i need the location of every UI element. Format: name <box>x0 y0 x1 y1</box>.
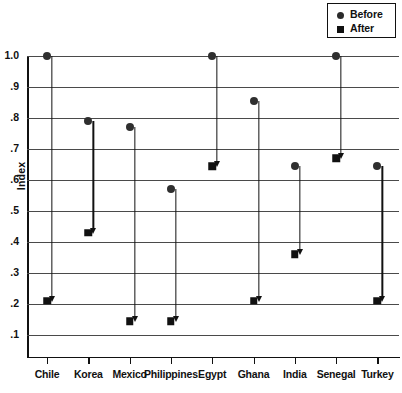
x-tick-label-philippines: Philippines <box>144 368 198 380</box>
after-data-point <box>291 251 299 259</box>
legend-item-before: Before <box>335 7 395 21</box>
change-arrow-shaft <box>299 166 300 249</box>
x-tick <box>295 357 296 364</box>
gridline <box>27 149 399 150</box>
y-tick-label: .6 <box>0 173 19 185</box>
before-data-point <box>250 97 258 105</box>
after-data-point <box>167 317 175 325</box>
after-data-point <box>43 297 51 305</box>
after-square-icon <box>335 21 346 35</box>
before-data-point <box>167 185 175 193</box>
gridline <box>27 242 399 243</box>
x-tick <box>254 357 255 364</box>
after-data-point <box>332 155 340 163</box>
x-tick <box>336 357 337 364</box>
x-axis-line <box>27 357 400 358</box>
y-tick-label: .2 <box>0 297 19 309</box>
legend-label-after: After <box>350 21 374 35</box>
x-tick-label-turkey: Turkey <box>361 368 393 380</box>
after-data-point <box>374 297 382 305</box>
after-data-point <box>126 317 134 325</box>
change-arrow-shaft <box>217 56 218 161</box>
plot-area: 1.0.9.8.7.6.5.4.3.2.1 <box>27 56 399 335</box>
gridline <box>27 180 399 181</box>
gridline <box>27 273 399 274</box>
x-tick <box>377 357 378 364</box>
before-data-point <box>373 162 381 170</box>
y-tick-label: .1 <box>0 328 19 340</box>
y-tick-label: .3 <box>0 266 19 278</box>
y-tick-label: .9 <box>0 80 19 92</box>
change-arrow-shaft <box>175 189 176 316</box>
x-tick <box>88 357 89 364</box>
x-tick-label-mexico: Mexico <box>112 368 146 380</box>
x-tick-label-ghana: Ghana <box>238 368 270 380</box>
chart-legend: Before After <box>327 3 396 38</box>
y-tick-label: .8 <box>0 111 19 123</box>
index-change-scatter-chart: Before After Index 1.0.9.8.7.6.5.4.3.2.1… <box>0 0 402 393</box>
y-tick-label: 1.0 <box>0 49 19 61</box>
change-arrow-shaft <box>382 166 383 296</box>
gridline <box>27 211 399 212</box>
x-tick-label-egypt: Egypt <box>198 368 226 380</box>
x-tick <box>212 357 213 364</box>
gridline <box>27 118 399 119</box>
gridline <box>27 304 399 305</box>
change-arrow-shaft <box>134 127 135 316</box>
after-data-point <box>85 229 93 237</box>
change-arrow-shaft <box>258 101 259 296</box>
before-data-point <box>208 52 216 60</box>
before-data-point <box>126 123 134 131</box>
x-tick-label-senegal: Senegal <box>317 368 356 380</box>
x-tick-label-korea: Korea <box>74 368 103 380</box>
y-tick-label: .4 <box>0 235 19 247</box>
gridline <box>27 87 399 88</box>
before-data-point <box>332 52 340 60</box>
before-data-point <box>43 52 51 60</box>
x-tick-label-india: India <box>283 368 307 380</box>
change-arrow-shaft <box>51 56 52 296</box>
before-data-point <box>84 117 92 125</box>
x-tick-label-chile: Chile <box>35 368 60 380</box>
legend-label-before: Before <box>350 7 383 21</box>
after-data-point <box>250 297 258 305</box>
change-arrow-shaft <box>93 121 94 228</box>
y-tick-label: .7 <box>0 142 19 154</box>
legend-item-after: After <box>335 21 395 35</box>
before-data-point <box>291 162 299 170</box>
change-arrow-shaft <box>340 56 341 153</box>
y-tick-label: .5 <box>0 204 19 216</box>
x-tick <box>171 357 172 364</box>
after-data-point <box>208 162 216 170</box>
x-tick <box>130 357 131 364</box>
before-circle-icon <box>335 7 346 21</box>
x-tick <box>47 357 48 364</box>
gridline <box>27 335 399 336</box>
